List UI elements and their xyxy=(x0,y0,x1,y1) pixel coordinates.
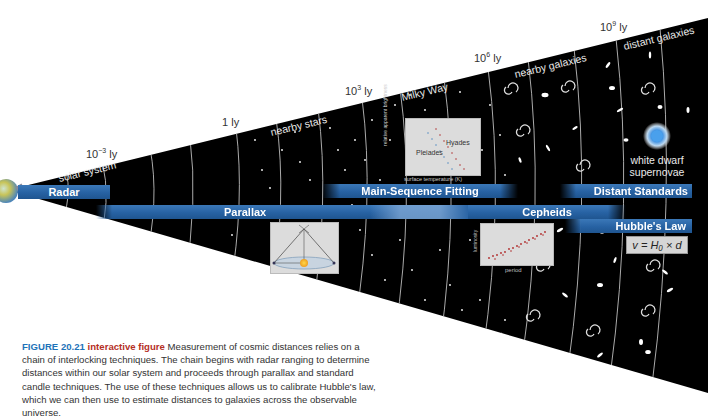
cepheid-plot xyxy=(481,224,553,265)
cepheid-x-label: period xyxy=(505,267,522,273)
scale-label-1: 1 ly xyxy=(222,116,239,128)
scale-label-10e3: 103 ly xyxy=(345,84,372,97)
band-cepheids: Cepheids xyxy=(468,205,626,219)
supernova-label-line2: supernovae xyxy=(622,166,692,178)
hr-y-label: relative apparent brightness xyxy=(382,84,388,146)
band-parallax: Parallax xyxy=(96,205,472,219)
supernova-label-line1: white dwarf xyxy=(622,154,692,166)
band-radar: Radar xyxy=(18,185,110,199)
cepheid-y-label: luminosity xyxy=(472,230,478,252)
band-distant-standards: Distant Standards xyxy=(560,184,692,198)
interactive-figure-link[interactable]: interactive figure xyxy=(88,341,165,352)
supernova-icon xyxy=(643,122,671,150)
band-hubbles-law: Hubble's Law xyxy=(565,219,692,233)
scale-label-10e9: 109 ly xyxy=(600,20,627,33)
figure-caption: FIGURE 20.21 interactive figure Measurem… xyxy=(22,340,382,419)
hubble-formula: v = H₀ × d xyxy=(626,236,688,254)
hyades-label: Hyades xyxy=(446,139,470,146)
hr-diagram-plot xyxy=(406,119,480,175)
band-parallax-label: Parallax xyxy=(224,205,266,219)
band-overlap-highlight xyxy=(370,205,470,219)
figure-number: FIGURE 20.21 xyxy=(22,341,85,352)
cepheid-inset xyxy=(480,223,554,266)
parallax-inset xyxy=(270,222,339,274)
parallax-diagram xyxy=(271,223,338,273)
hr-diagram-inset: Hyades Pleiades xyxy=(405,118,481,176)
supernova-label: white dwarf supernovae xyxy=(622,154,692,178)
scale-label-10e6: 106 ly xyxy=(474,51,501,64)
caption-text: Measurement of cosmic distances relies o… xyxy=(22,341,376,418)
scale-label-10e-3: 10−3 ly xyxy=(86,147,117,160)
hr-x-label: surface temperature (K) xyxy=(404,176,462,182)
band-main-sequence-fitting: Main-Sequence Fitting xyxy=(322,184,518,198)
pleiades-label: Pleiades xyxy=(416,149,443,156)
